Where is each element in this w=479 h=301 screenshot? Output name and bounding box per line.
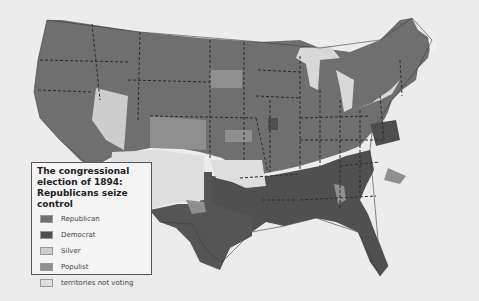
- republican-swatch-icon: [40, 215, 53, 223]
- map-legend: The congressional election of 1894: Repu…: [31, 162, 152, 275]
- region-populist-colorado: [150, 116, 206, 150]
- legend-item-democrat: Democrat: [37, 227, 146, 242]
- legend-title: The congressional election of 1894: Repu…: [37, 166, 146, 210]
- legend-item-silver: Silver: [37, 243, 146, 258]
- legend-label: territories not voting: [61, 279, 133, 287]
- region-populist-kansas: [225, 130, 252, 142]
- territories-swatch-icon: [40, 279, 53, 287]
- legend-label: Silver: [61, 247, 81, 255]
- legend-item-republican: Republican: [37, 211, 146, 226]
- legend-label: Democrat: [61, 231, 96, 239]
- populist-swatch-icon: [40, 263, 53, 271]
- legend-label: Republican: [61, 215, 100, 223]
- region-populist-sd: [210, 70, 242, 88]
- legend-label: Populist: [61, 263, 88, 271]
- legend-item-territories: territories not voting: [37, 275, 146, 290]
- democrat-swatch-icon: [40, 231, 53, 239]
- region-democrat-virginia: [370, 120, 400, 146]
- silver-swatch-icon: [40, 247, 53, 255]
- region-democrat-iowa: [268, 118, 278, 130]
- region-populist-nc: [384, 168, 406, 184]
- legend-item-populist: Populist: [37, 259, 146, 274]
